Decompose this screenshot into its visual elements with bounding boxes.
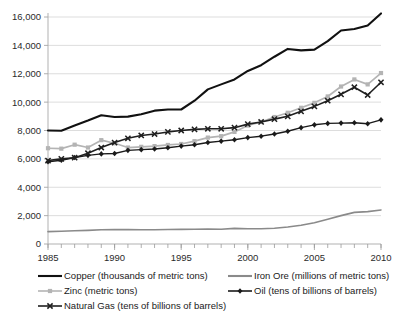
data-point-marker [272, 131, 277, 137]
legend-label: Copper (thousands of metric tons) [64, 270, 208, 281]
legend-item[interactable]: Iron Ore (millions of metric tons) [228, 270, 389, 281]
data-point-marker [379, 117, 384, 123]
legend-item[interactable]: Oil (tens of billions of barrels) [228, 285, 377, 296]
series-line [48, 210, 381, 232]
data-point-marker [73, 143, 77, 147]
data-point-marker [352, 85, 357, 90]
data-point-marker [339, 84, 343, 88]
series-line [48, 73, 381, 149]
x-tick-label: 2010 [370, 252, 391, 263]
series-3 [46, 71, 383, 151]
data-point-marker [219, 138, 224, 144]
series-line [48, 13, 381, 130]
y-tick-label: 10,000 [12, 97, 41, 108]
data-point-marker [339, 120, 344, 126]
legend-label: Iron Ore (millions of metric tons) [254, 270, 389, 281]
data-point-marker [299, 125, 304, 131]
legend-label: Oil (tens of billions of barrels) [254, 285, 377, 296]
legend-item[interactable]: Copper (thousands of metric tons) [38, 270, 208, 281]
data-point-marker [46, 146, 50, 150]
data-point-marker [232, 137, 237, 143]
data-point-marker [352, 120, 357, 126]
y-tick-label: 14,000 [12, 40, 41, 51]
legend-item[interactable]: Zinc (metric tons) [38, 285, 137, 296]
series-2 [48, 210, 381, 232]
data-point-marker [245, 135, 250, 141]
data-point-marker [59, 147, 63, 151]
data-point-marker [112, 151, 117, 157]
data-point-marker [232, 130, 236, 134]
data-point-marker [99, 138, 103, 142]
y-tick-label: 16,000 [12, 11, 41, 22]
series-1 [48, 13, 381, 130]
data-point-marker [48, 289, 52, 293]
data-point-marker [206, 135, 210, 139]
chart-legend: Copper (thousands of metric tons)Iron Or… [38, 270, 389, 311]
series-4 [46, 117, 384, 164]
x-tick-label: 1995 [171, 252, 192, 263]
data-point-marker [205, 140, 210, 146]
data-point-marker [378, 80, 383, 85]
chart-container: 02,0004,0006,0008,00010,00012,00014,0001… [0, 0, 394, 319]
data-point-marker [259, 133, 264, 139]
data-point-marker [219, 134, 223, 138]
legend-item[interactable]: Natural Gas (tens of billions of barrels… [38, 300, 226, 311]
data-point-marker [312, 122, 317, 128]
x-tick-label: 1985 [37, 252, 58, 263]
x-tick-label: 2000 [237, 252, 258, 263]
data-point-marker [365, 121, 370, 127]
legend-label: Natural Gas (tens of billions of barrels… [64, 300, 226, 311]
data-point-marker [326, 94, 330, 98]
y-tick-label: 4,000 [17, 182, 41, 193]
y-tick-label: 2,000 [17, 210, 41, 221]
data-point-marker [285, 128, 290, 134]
data-point-marker [379, 71, 383, 75]
data-point-marker [238, 288, 243, 294]
y-tick-label: 0 [36, 238, 41, 249]
line-chart: 02,0004,0006,0008,00010,00012,00014,0001… [0, 0, 394, 319]
y-tick-label: 6,000 [17, 153, 41, 164]
legend-label: Zinc (metric tons) [64, 285, 137, 296]
series-line [48, 120, 381, 162]
x-axis: 198519901995200020052010 [37, 244, 391, 263]
x-tick-label: 2005 [304, 252, 325, 263]
data-point-marker [99, 151, 104, 157]
data-point-marker [86, 145, 90, 149]
data-point-marker [325, 121, 330, 127]
data-point-marker [366, 82, 370, 86]
y-tick-label: 8,000 [17, 125, 41, 136]
x-tick-label: 1990 [104, 252, 125, 263]
data-point-marker [365, 92, 370, 97]
y-tick-label: 12,000 [12, 68, 41, 79]
data-point-marker [352, 77, 356, 81]
